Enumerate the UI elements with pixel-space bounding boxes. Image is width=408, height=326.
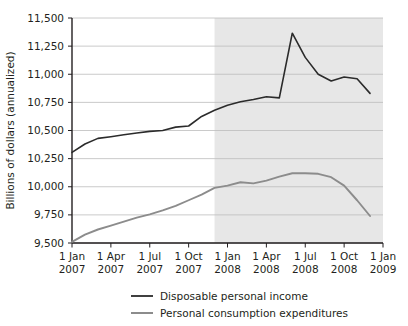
y-tick-label: 9,750 <box>34 208 64 220</box>
x-tick-label-year: 2007 <box>59 263 86 275</box>
y-axis-title: Billions of dollars (annualized) <box>4 51 16 209</box>
legend-label-1: Personal consumption expenditures <box>160 307 348 319</box>
y-tick-label: 11,500 <box>27 12 64 24</box>
y-tick-label: 11,250 <box>27 40 64 52</box>
y-tick-label: 10,750 <box>27 96 64 108</box>
x-tick-label-month: 1 Apr <box>252 250 281 262</box>
x-tick-label-year: 2008 <box>214 263 241 275</box>
x-tick-label-month: 1 Jan <box>370 250 396 262</box>
x-tick-label-year: 2009 <box>370 263 397 275</box>
x-tick-label-month: 1 Oct <box>330 250 358 262</box>
line-chart-svg: 9,5009,75010,00010,25010,50010,75011,000… <box>0 0 408 326</box>
x-tick-label-year: 2008 <box>253 263 280 275</box>
x-tick-label-year: 2008 <box>331 263 358 275</box>
legend-label-0: Disposable personal income <box>160 290 308 302</box>
y-tick-label: 10,250 <box>27 152 64 164</box>
y-tick-label: 11,000 <box>27 68 64 80</box>
chart-figure: 9,5009,75010,00010,25010,50010,75011,000… <box>0 0 408 326</box>
x-tick-label-month: 1 Jul <box>294 250 317 262</box>
x-tick-label-month: 1 Jan <box>59 250 85 262</box>
y-tick-label: 10,000 <box>27 180 64 192</box>
x-tick-label-year: 2008 <box>292 263 319 275</box>
x-tick-label-month: 1 Jul <box>138 250 161 262</box>
y-tick-label: 9,500 <box>34 237 64 249</box>
x-tick-label-year: 2007 <box>136 263 163 275</box>
y-tick-label: 10,500 <box>27 124 64 136</box>
x-tick-label-year: 2007 <box>175 263 202 275</box>
x-tick-label-month: 1 Apr <box>97 250 126 262</box>
x-tick-label-month: 1 Oct <box>175 250 203 262</box>
x-tick-label-month: 1 Jan <box>214 250 240 262</box>
x-tick-label-year: 2007 <box>98 263 125 275</box>
